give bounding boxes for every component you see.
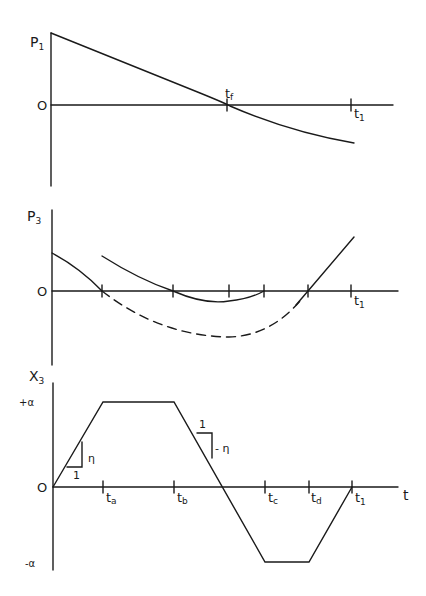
x3-slope-down-rise: - η: [215, 442, 229, 455]
p1-curve: [51, 33, 354, 143]
x3-plus-alpha-label: +α: [19, 397, 34, 408]
p3-curve-initial: [52, 253, 102, 291]
p3-curve-rising: [296, 237, 354, 305]
x3-slope-up-triangle: [67, 442, 82, 467]
p3-ylabel: P3: [27, 208, 41, 226]
p1-ylabel: P1: [30, 34, 44, 52]
panel-x3: [53, 383, 398, 570]
x3-tick-label-ta: ta: [106, 490, 117, 506]
x3-slope-down-run: 1: [199, 418, 206, 431]
x3-tick-label-tc: tc: [268, 490, 278, 506]
x3-minus-alpha-label: -α: [25, 558, 36, 569]
x3-tick-label-td: td: [311, 490, 322, 506]
p3-curve-dashed: [102, 291, 300, 337]
p3-curve-second: [102, 256, 264, 302]
p1-zero-label: O: [37, 98, 47, 113]
panel-p1: [51, 33, 393, 186]
x3-ylabel: X3: [29, 368, 44, 386]
x3-time-axis-label: t: [403, 487, 409, 503]
p3-zero-label: O: [37, 284, 47, 299]
p3-tick-label-t1: t1: [354, 293, 365, 310]
panel-p3: [52, 210, 398, 365]
x3-tick-label-t1: t1: [355, 490, 366, 507]
x3-slope-up-rise: η: [88, 452, 95, 465]
p1-tick-label-t1: t1: [354, 106, 365, 123]
p1-tick-label-tf: tf: [225, 86, 234, 102]
x3-slope-up-run: 1: [73, 469, 80, 482]
costate-control-diagram: P1 O tf t1 P3 O t1 X3 +α O -α t 1 η 1 - …: [0, 0, 426, 596]
x3-zero-label: O: [37, 480, 47, 495]
x3-tick-label-tb: tb: [177, 490, 188, 506]
